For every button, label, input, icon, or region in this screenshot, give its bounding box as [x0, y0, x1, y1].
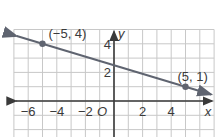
- data-point: [39, 41, 45, 47]
- point-label: (−5, 4): [49, 26, 87, 41]
- y-axis-label: y: [117, 26, 126, 41]
- point-label: (5, 1): [178, 69, 208, 84]
- x-axis-label: x: [204, 104, 212, 119]
- coordinate-plane: −6−4−22424Oxy(−5, 4)(5, 1): [0, 0, 224, 137]
- origin-label: O: [97, 104, 107, 119]
- x-tick-label: −6: [21, 104, 36, 119]
- x-tick-label: 2: [139, 104, 146, 119]
- x-tick-label: −4: [49, 104, 64, 119]
- y-tick-label: 2: [104, 65, 111, 80]
- data-point: [182, 84, 188, 90]
- y-tick-label: 4: [104, 37, 111, 52]
- x-tick-label: 4: [168, 104, 175, 119]
- x-tick-label: −2: [78, 104, 93, 119]
